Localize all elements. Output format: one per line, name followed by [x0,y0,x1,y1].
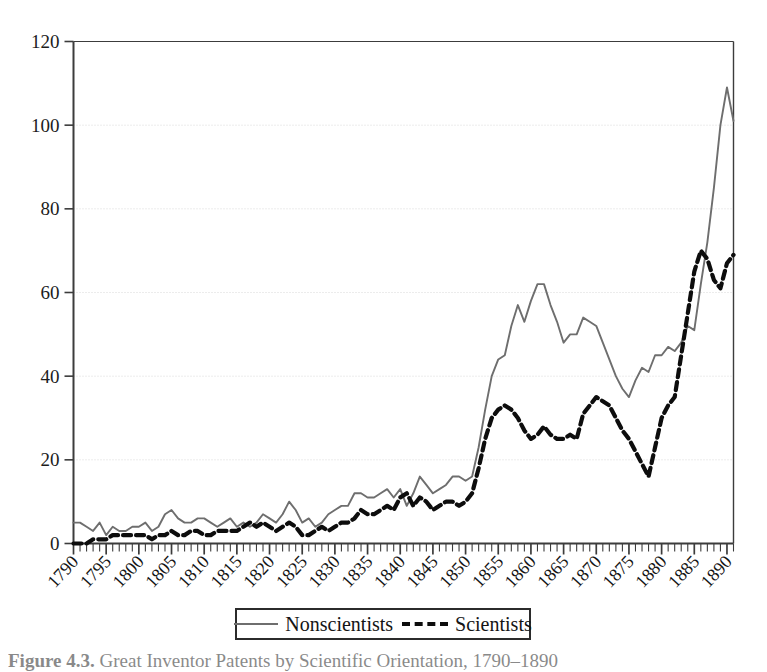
x-tick-label: 1845 [403,552,442,592]
gridlines [74,42,734,460]
chart-legend: Nonscientists Scientists [235,608,531,640]
x-tick-label: 1865 [533,552,572,592]
x-tick-label: 1795 [76,552,115,592]
x-tick-label: 1820 [239,552,278,592]
y-tick-label: 0 [50,533,60,554]
y-tick-label: 100 [31,115,60,136]
y-axis-ticks: 020406080100120 [31,31,74,554]
x-tick-label: 1880 [631,552,670,592]
x-tick-label: 1860 [501,552,540,592]
legend-entry-scientists: Scientists [402,613,532,636]
legend-label-nonscientists: Nonscientists [285,613,393,636]
x-tick-label: 1850 [435,552,474,592]
x-tick-label: 1800 [109,552,148,592]
x-tick-label: 1825 [272,552,311,592]
legend-swatch-solid-icon [234,623,278,625]
data-series [74,88,734,544]
legend-entry-nonscientists: Nonscientists [234,613,393,636]
y-tick-label: 120 [31,31,60,52]
caption-prefix: Figure 4.3. [8,650,95,671]
x-tick-label: 1810 [174,552,213,592]
x-axis-tick-labels: 1790179518001805181018151820182518301835… [43,552,736,592]
x-tick-label: 1870 [566,552,605,592]
y-tick-label: 40 [41,366,60,387]
x-tick-label: 1815 [207,552,246,592]
y-tick-label: 20 [41,449,60,470]
x-tick-label: 1840 [370,552,409,592]
legend-swatch-dashed-icon [402,622,448,626]
caption-text: Great Inventor Patents by Scientific Ori… [99,650,558,671]
x-tick-label: 1855 [468,552,507,592]
x-tick-label: 1885 [664,552,703,592]
x-axis-minor-ticks [74,544,734,555]
figure-caption: Figure 4.3. Great Inventor Patents by Sc… [8,650,759,672]
x-tick-label: 1805 [141,552,180,592]
x-tick-label: 1830 [305,552,344,592]
legend-label-scientists: Scientists [455,613,532,636]
x-tick-label: 1835 [337,552,376,592]
x-tick-label: 1790 [43,552,82,592]
x-tick-label: 1875 [599,552,638,592]
y-tick-label: 60 [41,282,60,303]
x-tick-label: 1890 [697,552,736,592]
y-tick-label: 80 [41,198,60,219]
series-line-nonscientists [74,88,734,536]
